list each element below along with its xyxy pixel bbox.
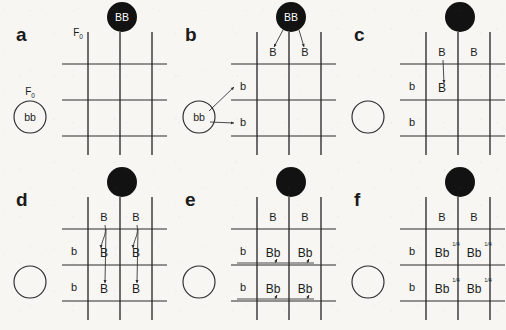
copy-arrow-col1-cell2 <box>105 229 106 283</box>
cell-genotype-r1c2: Bb <box>467 246 482 260</box>
recessive-parent-disc <box>14 266 46 298</box>
cell-genotype-r1c2: B <box>132 246 140 260</box>
row-header-allele-1: b <box>409 80 415 92</box>
dominant-parent-genotype: BB <box>284 11 298 23</box>
cell-genotype-r1c1: B <box>438 81 446 95</box>
copy-arrow-col2-cell2 <box>137 229 138 283</box>
panel-graphic-c: BBbbB <box>338 0 506 165</box>
panel-e: eBBbbBbBbBbBb <box>169 165 338 330</box>
row-header-allele-2: b <box>240 281 246 293</box>
row-header-allele-1: b <box>71 245 77 257</box>
dominant-parent-disc <box>276 167 306 197</box>
panel-a: aBBbbF0F0 <box>0 0 169 165</box>
row-header-allele-1: b <box>240 245 246 257</box>
panel-graphic-b: BBbbBBbb <box>169 0 338 165</box>
cell-fraction-r2c2: 1/4 <box>484 277 492 283</box>
column-header-allele-2: B <box>301 46 308 58</box>
row-header-allele-2: b <box>409 116 415 128</box>
row-header-allele-2: b <box>71 281 77 293</box>
recessive-parent-disc <box>352 101 384 133</box>
cell-genotype-r1c2: Bb <box>298 246 313 260</box>
column-header-allele-2: B <box>470 46 477 58</box>
column-header-allele-2: B <box>301 211 308 223</box>
recessive-parent-genotype: bb <box>24 111 36 123</box>
row-header-allele-1: b <box>240 80 246 92</box>
gamete-arrow-recessive-1 <box>209 87 234 111</box>
cell-genotype-r2c1: Bb <box>266 282 281 296</box>
recessive-parent-disc <box>352 266 384 298</box>
dominant-parent-genotype: BB <box>115 11 129 23</box>
row-header-allele-2: b <box>409 281 415 293</box>
cell-fraction-r1c2: 1/4 <box>484 241 492 247</box>
panel-c: cBBbbB <box>338 0 506 165</box>
cell-genotype-r2c2: B <box>132 282 140 296</box>
punnett-square-figure: aBBbbF0F0bBBbbBBbbcBBbbBdBBbbBBBBeBBbbBb… <box>0 0 506 330</box>
cell-genotype-r2c2: Bb <box>467 282 482 296</box>
column-header-allele-1: B <box>269 211 276 223</box>
row-header-allele-2: b <box>240 116 246 128</box>
dominant-parent-disc <box>445 167 475 197</box>
column-header-allele-1: B <box>269 46 276 58</box>
dominant-parent-disc <box>107 167 137 197</box>
generation-label-dominant: F0 <box>73 27 83 40</box>
cell-genotype-r2c1: B <box>100 282 108 296</box>
panel-graphic-d: BBbbBBBB <box>0 165 169 330</box>
column-header-allele-2: B <box>470 211 477 223</box>
cell-genotype-r1c1: Bb <box>435 246 450 260</box>
panel-graphic-e: BBbbBbBbBbBb <box>169 165 338 330</box>
panel-d: dBBbbBBBB <box>0 165 169 330</box>
panel-b: bBBbbBBbb <box>169 0 338 165</box>
row-header-allele-1: b <box>409 245 415 257</box>
recessive-parent-disc <box>183 266 215 298</box>
cell-genotype-r1c1: B <box>100 246 108 260</box>
dominant-parent-disc <box>445 2 475 32</box>
gamete-arrowhead-recessive-2 <box>231 121 234 124</box>
cell-fraction-r2c1: 1/4 <box>452 277 460 283</box>
panel-graphic-f: BBbbBbBbBbBb1/41/41/41/4 <box>338 165 506 330</box>
cell-genotype-r2c2: Bb <box>298 282 313 296</box>
panel-graphic-a: BBbbF0F0 <box>0 0 169 165</box>
column-header-allele-1: B <box>438 46 445 58</box>
cell-genotype-r1c1: Bb <box>266 246 281 260</box>
recessive-parent-genotype: bb <box>193 111 205 123</box>
generation-label-recessive: F0 <box>25 86 35 99</box>
column-header-allele-1: B <box>438 211 445 223</box>
panel-f: fBBbbBbBbBbBb1/41/41/41/4 <box>338 165 506 330</box>
cell-fraction-r1c1: 1/4 <box>452 241 460 247</box>
column-header-allele-1: B <box>100 211 107 223</box>
column-header-allele-2: B <box>132 211 139 223</box>
cell-genotype-r2c1: Bb <box>435 282 450 296</box>
